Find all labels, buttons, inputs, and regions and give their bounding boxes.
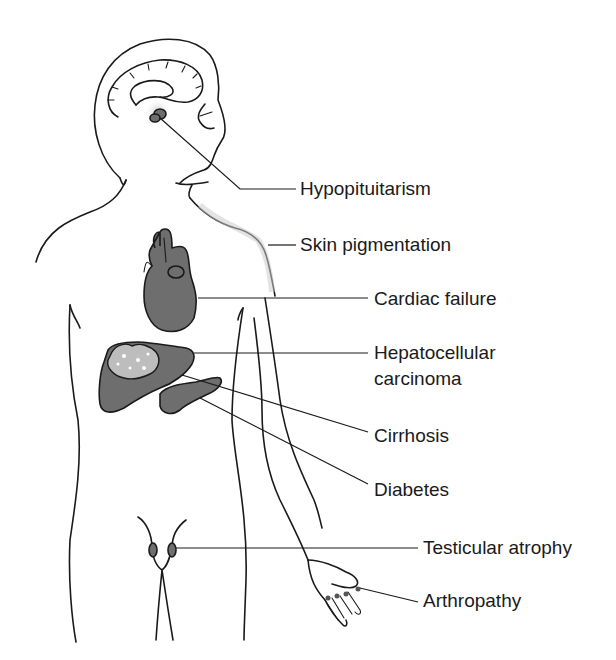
label-cirrhosis: Cirrhosis	[374, 423, 449, 448]
label-skin-pigmentation: Skin pigmentation	[300, 232, 451, 257]
leader-diabetes	[200, 398, 368, 484]
genital-outline	[138, 517, 186, 640]
label-cardiac-failure: Cardiac failure	[374, 286, 497, 311]
skin-pigmentation-area	[200, 205, 272, 292]
label-hepatocellular-line2: carcinoma	[374, 366, 462, 391]
anatomical-diagram	[0, 0, 616, 660]
hand-outline	[308, 560, 361, 626]
label-hepatocellular-line1: Hepatocellular	[374, 340, 495, 365]
label-hypopituitarism: Hypopituitarism	[300, 176, 431, 201]
pituitary-gland	[144, 98, 172, 126]
label-arthropathy: Arthropathy	[423, 588, 521, 613]
heart-organ	[144, 229, 196, 332]
leader-arthropathy	[360, 588, 418, 602]
label-testicular-atrophy: Testicular atrophy	[423, 535, 572, 560]
leader-hypopituitarism	[160, 118, 296, 189]
liver-tumor	[108, 344, 159, 379]
label-diabetes: Diabetes	[374, 477, 449, 502]
